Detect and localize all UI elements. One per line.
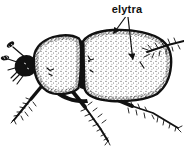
front-leg-femur: [31, 87, 41, 99]
front-leg-tibia-tarsus: [14, 99, 31, 120]
elytron-blotch: [88, 60, 90, 62]
front-leg: [11, 87, 41, 124]
beetle-figure-svg: elytra: [0, 0, 184, 149]
antenna-club-lower: [1, 55, 10, 61]
beetle-illustration: elytra: [0, 0, 184, 149]
hind-leg-spines: [124, 99, 182, 132]
head-shape: [15, 56, 34, 76]
elytron: [81, 30, 171, 101]
middle-leg-tibia-tarsus: [85, 107, 108, 141]
hind-leg-tibia-tarsus: [132, 106, 178, 128]
elytra-label: elytra: [112, 3, 143, 15]
pronotum: [34, 35, 81, 94]
